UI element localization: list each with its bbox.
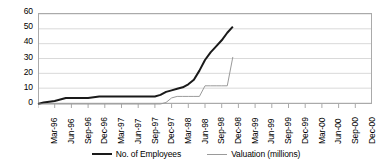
legend-item[interactable]: Valuation (millions)	[207, 149, 300, 159]
legend-line-swatch	[207, 154, 227, 155]
x-axis-tick-label: Sep-96	[84, 117, 93, 144]
x-axis-tick-label: Sep-99	[284, 117, 293, 144]
legend-label: Valuation (millions)	[231, 149, 300, 159]
y-axis-tick-label: 30	[0, 53, 33, 62]
x-axis-tick-label: Mar-99	[251, 118, 260, 144]
x-axis-tick-label: Mar-97	[117, 118, 126, 144]
y-axis-tick-label: 10	[0, 83, 33, 92]
x-axis-tick-label: Sep-98	[217, 117, 226, 144]
x-axis-tick-label: Jun-99	[267, 119, 276, 144]
x-axis-tick-label: Jun-98	[201, 119, 210, 144]
y-axis-tick-label: 40	[0, 37, 33, 46]
x-axis-tick-label: Dec-00	[368, 117, 377, 144]
chart-container: 6050403020100 Mar-96Jun-96Sep-96Dec-96Ma…	[0, 0, 392, 165]
x-axis-tick-label: Sep-97	[151, 117, 160, 144]
x-axis: Mar-96Jun-96Sep-96Dec-96Mar-97Jun-97Sep-…	[38, 106, 372, 150]
legend-label: No. of Employees	[116, 149, 182, 159]
chart-legend: No. of EmployeesValuation (millions)	[0, 146, 392, 162]
x-axis-tick-label: Mar-98	[184, 118, 193, 144]
x-axis-tick-label: Mar-96	[50, 118, 59, 144]
x-axis-tick-label: Dec-96	[100, 117, 109, 144]
x-axis-tick-label: Mar-00	[318, 118, 327, 144]
y-axis: 6050403020100	[0, 6, 33, 104]
x-axis-tick-label: Sep-00	[351, 117, 360, 144]
x-axis-tick-label: Dec-98	[234, 117, 243, 144]
legend-line-swatch	[92, 153, 112, 155]
x-axis-ticks	[38, 104, 372, 108]
y-axis-tick-label: 60	[0, 7, 33, 16]
data-series-layer	[38, 13, 372, 104]
legend-item[interactable]: No. of Employees	[92, 149, 182, 159]
y-axis-tick-label: 50	[0, 22, 33, 31]
x-axis-tick-label: Dec-97	[167, 117, 176, 144]
x-axis-tick-label: Jun-00	[334, 119, 343, 144]
x-axis-tick-label: Jun-96	[67, 119, 76, 144]
x-axis-tick-label: Dec-99	[301, 117, 310, 144]
x-axis-tick-label: Jun-97	[134, 119, 143, 144]
series-line	[38, 27, 233, 104]
y-axis-tick-label: 0	[0, 98, 33, 107]
y-axis-tick-label: 20	[0, 68, 33, 77]
